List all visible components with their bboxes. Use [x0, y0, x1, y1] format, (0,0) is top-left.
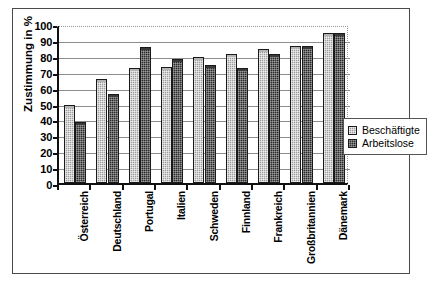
bar-top-cap: [129, 68, 140, 71]
bar-top-cap: [96, 79, 107, 82]
x-axis-tick: [57, 185, 59, 190]
y-axis-tick-label: 40: [40, 115, 52, 127]
y-axis-tick-label: 10: [40, 163, 52, 175]
y-axis-tick-label: 90: [40, 36, 52, 48]
bar: [96, 81, 107, 183]
x-axis-label-deutschland: Deutschland: [111, 191, 123, 252]
x-axis-label-sterreich: Österreich: [78, 191, 90, 242]
bar-top-cap: [64, 105, 75, 108]
bar-group: [318, 26, 350, 183]
plot-area: [57, 26, 348, 185]
bar-group: [221, 26, 253, 183]
bar: [205, 67, 216, 183]
x-axis-tick: [251, 185, 253, 190]
bar: [290, 48, 301, 183]
bar: [226, 56, 237, 183]
bar-top-cap: [75, 122, 86, 125]
bar-top-cap: [108, 94, 119, 97]
bar-top-cap: [269, 54, 280, 57]
bar-group: [156, 26, 188, 183]
x-axis-tick: [283, 185, 285, 190]
bar: [193, 59, 204, 183]
x-axis-tick: [122, 185, 124, 190]
bar-top-cap: [237, 68, 248, 71]
bar: [64, 107, 75, 183]
x-axis-tick: [348, 185, 350, 190]
bar: [258, 51, 269, 183]
bar-top-cap: [226, 54, 237, 57]
bar-top-cap: [161, 67, 172, 70]
bar-top-cap: [258, 49, 269, 52]
bar-group: [253, 26, 285, 183]
x-axis-label-dnemark: Dänemark: [337, 191, 349, 240]
y-axis-tick-label: 30: [40, 131, 52, 143]
legend-item-label: Arbeitslose: [362, 137, 414, 149]
chart-legend: BeschäftigteArbeitslose: [343, 118, 427, 155]
bar-group: [285, 26, 317, 183]
y-axis-tick-label: 20: [40, 147, 52, 159]
x-axis-label-portugal: Portugal: [143, 191, 155, 232]
bar-top-cap: [193, 57, 204, 60]
legend-item-label: Beschäftigte: [362, 124, 420, 136]
bar: [75, 124, 86, 183]
x-axis-label-schweden: Schweden: [208, 191, 220, 241]
bar: [172, 61, 183, 183]
bar-top-cap: [290, 46, 301, 49]
bar: [334, 35, 345, 183]
y-axis-tick-label: 60: [40, 84, 52, 96]
bar-group: [91, 26, 123, 183]
legend-item: Beschäftigte: [348, 124, 420, 136]
y-axis-tick-label: 80: [40, 52, 52, 64]
bar: [108, 96, 119, 183]
bar: [302, 48, 313, 183]
bar: [129, 70, 140, 183]
x-axis-tick: [316, 185, 318, 190]
y-axis-tick-label: 70: [40, 68, 52, 80]
bar-top-cap: [172, 59, 183, 62]
x-axis-label-finnland: Finnland: [240, 191, 252, 233]
bar-top-cap: [140, 47, 151, 50]
bar-top-cap: [302, 46, 313, 49]
y-axis-tick-label: 0: [46, 179, 52, 191]
bar: [140, 49, 151, 183]
x-axis-label-grobritannien: Großbritannien: [305, 191, 317, 264]
x-axis-label-frankreich: Frankreich: [272, 191, 284, 243]
light-hatched-swatch: [348, 126, 357, 135]
bar: [269, 56, 280, 183]
bar: [161, 69, 172, 183]
y-axis-tick-labels: 0102030405060708090100: [8, 26, 52, 185]
bar: [237, 70, 248, 183]
bar-top-cap: [205, 65, 216, 68]
bar: [323, 35, 334, 183]
dark-hatched-swatch: [348, 139, 357, 148]
x-axis-tick: [219, 185, 221, 190]
y-axis-tick-label: 50: [40, 100, 52, 112]
bar-group: [59, 26, 91, 183]
y-axis-tick-label: 100: [35, 20, 52, 32]
bar-group: [124, 26, 156, 183]
x-axis-tick: [89, 185, 91, 190]
x-axis-tick: [186, 185, 188, 190]
bar-group: [188, 26, 220, 183]
bar-top-cap: [323, 33, 334, 36]
x-axis-tick: [154, 185, 156, 190]
x-axis-label-italien: Italien: [175, 191, 187, 220]
legend-item: Arbeitslose: [348, 137, 420, 149]
bar-top-cap: [334, 33, 345, 36]
